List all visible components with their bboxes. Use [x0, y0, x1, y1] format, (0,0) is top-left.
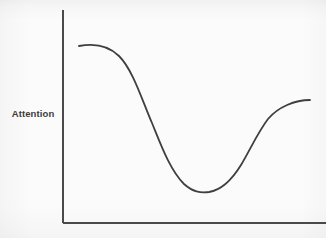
attention-curve-line	[79, 45, 310, 193]
attention-curve-figure: Attention	[0, 0, 326, 238]
y-axis-title-label: Attention	[6, 107, 60, 120]
